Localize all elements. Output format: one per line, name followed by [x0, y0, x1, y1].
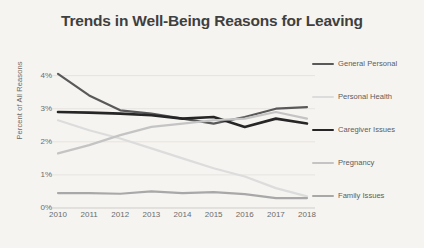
- chart-figure: Trends in Well-Being Reasons for Leaving…: [0, 0, 424, 248]
- x-tick-label: 2012: [111, 210, 129, 219]
- x-axis-tick-labels: 201020112012201320142015201620172018: [0, 210, 424, 226]
- legend-item-caregiver-issues[interactable]: Caregiver Issues: [312, 123, 395, 137]
- series-line-4: [58, 191, 307, 198]
- legend-label: Pregnancy: [338, 159, 374, 167]
- x-tick-label: 2011: [81, 210, 98, 219]
- x-tick-label: 2014: [174, 210, 192, 219]
- plot-area: Percent of All Reasons 0%1%2%3%4% 201020…: [0, 0, 424, 248]
- legend-item-pregnancy[interactable]: Pregnancy: [312, 156, 374, 170]
- legend-item-family-issues[interactable]: Family Issues: [312, 189, 384, 203]
- x-tick-label: 2015: [205, 210, 223, 219]
- legend-item-general-personal[interactable]: General Personal: [312, 57, 397, 71]
- x-tick-label: 2013: [142, 210, 160, 219]
- legend-swatch-icon: [312, 129, 334, 132]
- legend-label: Caregiver Issues: [338, 126, 395, 134]
- legend-swatch-icon: [312, 195, 334, 197]
- x-tick-label: 2010: [49, 210, 67, 219]
- legend-swatch-icon: [312, 63, 334, 65]
- legend-item-personal-health[interactable]: Personal Health: [312, 90, 392, 104]
- series-line-0: [58, 74, 307, 124]
- chart-legend: General PersonalPersonal HealthCaregiver…: [312, 57, 424, 207]
- series-line-1: [58, 120, 307, 196]
- legend-swatch-icon: [312, 96, 334, 98]
- x-tick-label: 2018: [298, 210, 316, 219]
- legend-label: Family Issues: [338, 192, 384, 200]
- legend-label: Personal Health: [338, 93, 392, 101]
- legend-label: General Personal: [338, 60, 397, 68]
- x-tick-label: 2016: [236, 210, 254, 219]
- x-tick-label: 2017: [267, 210, 285, 219]
- legend-swatch-icon: [312, 162, 334, 164]
